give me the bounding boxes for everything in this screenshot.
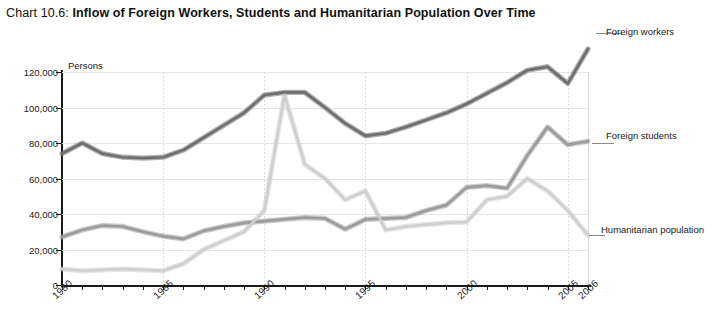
y-axis-tick-label: 120,000 — [24, 67, 58, 78]
callout-foreign-students: Foreign students — [606, 130, 677, 141]
x-axis-tick — [345, 285, 346, 290]
x-axis-tick — [204, 285, 205, 290]
x-axis-tick — [446, 285, 447, 290]
y-axis-labels: 120,000100,00080,00060,00040,00020,0000 — [0, 72, 58, 285]
series-line-halo — [62, 49, 588, 158]
x-axis-line — [61, 285, 591, 287]
x-axis-tick — [143, 285, 144, 290]
x-axis-tick — [183, 285, 184, 290]
x-axis-tick — [325, 285, 326, 290]
plot-right-edge — [588, 72, 589, 285]
x-axis-tick — [386, 285, 387, 290]
series-line — [62, 127, 588, 239]
x-axis-tick — [123, 285, 124, 290]
x-axis-tick — [244, 285, 245, 290]
leader-line-humanitarian-population — [589, 235, 605, 236]
x-axis-tick — [406, 285, 407, 290]
y-axis-tick-label: 40,000 — [29, 209, 58, 220]
y-axis-tick-label: 60,000 — [29, 173, 58, 184]
x-axis-tick — [82, 285, 83, 290]
y-axis-tick-label: 20,000 — [29, 244, 58, 255]
callout-foreign-workers: Foreign workers — [606, 26, 674, 37]
chart-title-main: Inflow of Foreign Workers, Students and … — [73, 6, 536, 20]
y-axis-tick-label: 80,000 — [29, 138, 58, 149]
y-axis-tick-label: 100,000 — [24, 102, 58, 113]
chart-title-prefix: Chart 10.6: — [6, 6, 73, 20]
x-axis-tick — [507, 285, 508, 290]
x-axis-tick — [426, 285, 427, 290]
y-axis-caption: Persons — [68, 60, 103, 71]
x-axis-tick — [102, 285, 103, 290]
x-axis-tick — [224, 285, 225, 290]
chart-title: Chart 10.6: Inflow of Foreign Workers, S… — [6, 6, 536, 20]
chart-figure: Chart 10.6: Inflow of Foreign Workers, S… — [0, 0, 726, 321]
x-axis-tick — [305, 285, 306, 290]
callout-humanitarian-population: Humanitarian population — [601, 224, 704, 235]
series-lines — [62, 72, 588, 285]
leader-line-foreign-students — [592, 143, 614, 144]
series-line — [62, 49, 588, 158]
plot-area — [62, 72, 588, 285]
x-axis-tick — [548, 285, 549, 290]
x-axis-tick — [487, 285, 488, 290]
x-axis-tick — [527, 285, 528, 290]
x-axis-tick — [285, 285, 286, 290]
